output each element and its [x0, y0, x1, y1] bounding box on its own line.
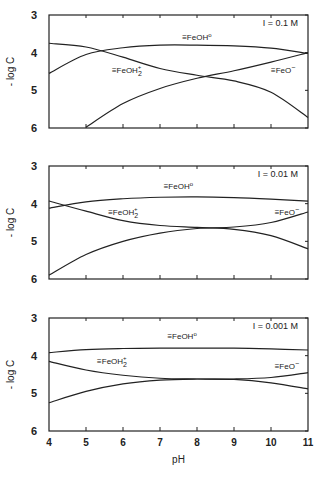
y-tick-label: 3 [31, 312, 37, 324]
curve-feoh-neutral [49, 348, 308, 353]
x-tick-label: 11 [303, 437, 314, 448]
label-feo-minus: ≡FeO− [275, 360, 299, 371]
y-tick-label: 5 [31, 84, 37, 96]
ionic-strength-label: I = 0.01 M [258, 169, 298, 179]
ionic-strength-label: I = 0.001 M [253, 321, 298, 331]
label-feoh-neutral: ≡FeOHo [164, 181, 194, 191]
panel-2: 3456- log CI = 0.01 M≡FeOHo≡FeOH2+≡FeO− [5, 160, 308, 285]
ionic-strength-label: I = 0.1 M [263, 18, 298, 28]
x-tick-label: 9 [231, 437, 237, 448]
y-tick-label: 3 [31, 160, 37, 172]
y-tick-label: 5 [31, 387, 37, 399]
curve-feoh2-plus [49, 361, 308, 388]
curve-feo-minus [86, 53, 308, 128]
label-feoh-neutral: ≡FeOHo [167, 331, 197, 341]
y-tick-label: 5 [31, 235, 37, 247]
curve-feo-minus [49, 212, 308, 275]
curve-feo-minus [49, 373, 308, 403]
x-tick-label: 7 [157, 437, 163, 448]
x-tick-label: 5 [83, 437, 89, 448]
x-tick-label: 8 [194, 437, 200, 448]
y-axis-label: - log C [5, 360, 16, 389]
y-axis-label: - log C [5, 57, 16, 86]
x-tick-label: 10 [265, 437, 277, 448]
y-tick-label: 4 [31, 198, 38, 210]
y-tick-label: 6 [31, 273, 37, 285]
x-tick-label: 6 [120, 437, 126, 448]
chart-figure: 3456- log CI = 0.1 M≡FeOHo≡FeOH2+≡FeO−34… [0, 0, 324, 477]
label-feoh2-plus: ≡FeOH2+ [97, 355, 127, 368]
x-axis-label: pH [172, 454, 185, 465]
label-feoh2-plus: ≡FeOH2+ [112, 64, 142, 77]
y-tick-label: 6 [31, 425, 37, 437]
panel-1: 3456- log CI = 0.1 M≡FeOHo≡FeOH2+≡FeO− [5, 9, 308, 134]
plot-frame [49, 15, 308, 128]
curve-feoh-neutral [49, 197, 308, 208]
label-feoh2-plus: ≡FeOH2+ [108, 206, 138, 219]
y-tick-label: 3 [31, 9, 37, 21]
y-axis-label: - log C [5, 208, 16, 237]
curve-feoh-neutral [49, 45, 308, 73]
label-feoh-neutral: ≡FeOHo [182, 32, 212, 42]
x-tick-label: 4 [46, 437, 52, 448]
y-tick-label: 6 [31, 122, 37, 134]
y-tick-label: 4 [31, 47, 38, 59]
curve-feoh2-plus [49, 201, 308, 249]
panel-3: 3456- log CI = 0.001 M≡FeOHo≡FeOH2+≡FeO−… [5, 312, 314, 465]
y-tick-label: 4 [31, 350, 38, 362]
label-feo-minus: ≡FeO− [271, 64, 295, 75]
